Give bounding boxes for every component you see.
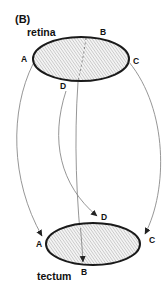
retinotectal-map-diagram: (B) retina A B C D A B C D tectum — [0, 0, 168, 290]
retina-label: retina — [27, 26, 56, 38]
projection-arrow-c — [129, 62, 161, 234]
projection-arrow-a — [17, 64, 42, 236]
tectum-point-d: D — [101, 212, 107, 222]
retina-point-c: C — [133, 56, 139, 66]
retina-ellipse — [33, 37, 129, 81]
retina-point-a: A — [21, 54, 27, 64]
tectum-label: tectum — [37, 270, 71, 282]
tectum-point-a: A — [36, 239, 42, 249]
tectum-point-b: B — [81, 267, 87, 277]
tectum-point-c: C — [149, 235, 155, 245]
tectum-ellipse — [46, 223, 140, 265]
retina-point-b: B — [100, 27, 106, 37]
panel-label: (B) — [15, 13, 31, 25]
retina-point-d: D — [60, 81, 66, 91]
